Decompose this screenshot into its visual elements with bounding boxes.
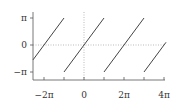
series-segment-1 <box>33 18 64 60</box>
y-axis-ticks: π0−π <box>14 13 33 77</box>
x-tick-label: −2π <box>34 90 53 100</box>
sawtooth-chart: −2π02π4π π0−π <box>0 0 179 107</box>
y-tick-label: −π <box>14 67 28 77</box>
y-tick-label: 0 <box>21 40 27 50</box>
x-axis-ticks: −2π02π4π <box>34 77 169 100</box>
x-tick-label: 0 <box>81 90 87 100</box>
y-tick-label: π <box>21 13 27 23</box>
series-segment-4 <box>144 42 166 72</box>
x-tick-label: 2π <box>118 90 130 100</box>
x-tick-label: 4π <box>158 90 170 100</box>
